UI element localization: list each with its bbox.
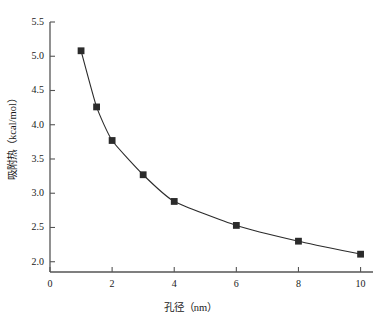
x-axis-tick-label: 10 bbox=[341, 278, 381, 289]
series-line bbox=[81, 51, 361, 254]
x-axis-title-text: 孔径（nm） bbox=[164, 302, 217, 313]
y-axis-ticks bbox=[50, 22, 55, 262]
y-axis-tick-label: 3.5 bbox=[8, 153, 44, 164]
x-axis-tick-label: 8 bbox=[278, 278, 318, 289]
data-point-marker bbox=[171, 198, 178, 205]
axis-lines bbox=[50, 22, 373, 272]
chart-plot-area bbox=[0, 0, 381, 318]
data-point-marker bbox=[93, 104, 100, 111]
y-axis-tick-label: 5.5 bbox=[8, 16, 44, 27]
x-axis-tick-label: 0 bbox=[30, 278, 70, 289]
y-axis-tick-label: 2.5 bbox=[8, 221, 44, 232]
data-point-marker bbox=[233, 222, 240, 229]
x-axis-title: 孔径（nm） bbox=[0, 299, 381, 314]
y-axis-tick-label: 4.0 bbox=[8, 119, 44, 130]
data-series bbox=[78, 47, 364, 257]
y-axis-tick-label: 5.0 bbox=[8, 50, 44, 61]
data-point-marker bbox=[78, 47, 85, 54]
x-axis-ticks bbox=[50, 267, 361, 272]
y-axis-tick-label: 3.0 bbox=[8, 187, 44, 198]
data-point-marker bbox=[140, 171, 147, 178]
chart-container: 2.02.53.03.54.04.55.05.5 0246810 吸附热（kca… bbox=[0, 0, 381, 318]
y-axis-tick-label: 2.0 bbox=[8, 256, 44, 267]
data-point-marker bbox=[357, 251, 364, 258]
x-axis-tick-label: 4 bbox=[154, 278, 194, 289]
x-axis-tick-label: 2 bbox=[92, 278, 132, 289]
data-point-marker bbox=[295, 238, 302, 245]
y-axis-tick-label: 4.5 bbox=[8, 84, 44, 95]
x-axis-tick-label: 6 bbox=[216, 278, 256, 289]
data-point-marker bbox=[109, 137, 116, 144]
